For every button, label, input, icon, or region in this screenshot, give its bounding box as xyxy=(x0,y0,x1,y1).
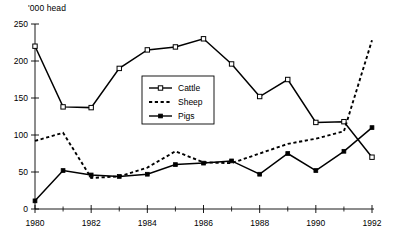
x-tick-label: 1982 xyxy=(82,218,101,228)
chart-canvas: 050100150200250 198019821984198619881990… xyxy=(0,0,396,241)
legend-label-sheep: Sheep xyxy=(178,97,203,107)
data-point-cattle xyxy=(314,120,318,124)
data-point-pigs xyxy=(342,149,346,153)
data-point-pigs xyxy=(230,159,234,163)
chart-legend: CattleSheepPigs xyxy=(142,76,214,124)
y-tick-label: 50 xyxy=(19,167,29,177)
legend-marker-pigs xyxy=(159,114,163,118)
data-point-cattle xyxy=(201,37,205,41)
x-tick-label: 1988 xyxy=(250,218,269,228)
data-point-cattle xyxy=(286,77,290,81)
data-point-pigs xyxy=(89,173,93,177)
data-point-cattle xyxy=(370,155,374,159)
data-point-pigs xyxy=(61,169,65,173)
legend-marker-cattle xyxy=(158,86,162,90)
y-tick-label: 0 xyxy=(23,204,28,214)
livestock-line-chart: '000 head 050100150200250 19801982198419… xyxy=(0,0,396,241)
data-point-pigs xyxy=(202,161,206,165)
x-axis: 1980198219841986198819901992 xyxy=(26,205,382,228)
data-point-pigs xyxy=(174,163,178,167)
data-point-cattle xyxy=(61,105,65,109)
data-point-cattle xyxy=(117,66,121,70)
x-tick-label: 1986 xyxy=(194,218,213,228)
y-tick-label: 200 xyxy=(14,56,28,66)
x-tick-label: 1992 xyxy=(363,218,382,228)
data-point-cattle xyxy=(257,94,261,98)
data-point-cattle xyxy=(89,105,93,109)
y-tick-label: 100 xyxy=(14,130,28,140)
data-point-pigs xyxy=(117,175,121,179)
x-tick-label: 1990 xyxy=(306,218,325,228)
data-point-pigs xyxy=(258,172,262,176)
y-tick-label: 150 xyxy=(14,93,28,103)
legend-label-cattle: Cattle xyxy=(178,83,200,93)
data-point-pigs xyxy=(33,199,37,203)
data-point-cattle xyxy=(145,48,149,52)
data-point-cattle xyxy=(229,62,233,66)
data-point-pigs xyxy=(314,169,318,173)
legend-label-pigs: Pigs xyxy=(178,111,195,121)
x-tick-label: 1980 xyxy=(26,218,45,228)
data-point-pigs xyxy=(286,152,290,156)
data-point-cattle xyxy=(173,45,177,49)
data-point-cattle xyxy=(33,44,37,48)
y-tick-label: 250 xyxy=(14,19,28,29)
x-tick-label: 1984 xyxy=(138,218,157,228)
data-point-pigs xyxy=(370,126,374,130)
data-point-pigs xyxy=(145,172,149,176)
